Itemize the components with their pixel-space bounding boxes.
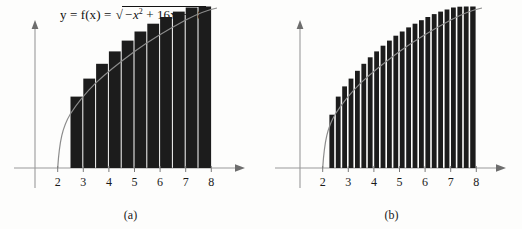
bar (173, 12, 185, 168)
tick-label: 8 (208, 175, 214, 189)
panel-b: 2 3 4 5 6 7 8 (b) (261, 0, 522, 229)
bar (135, 32, 147, 169)
bar (425, 17, 430, 168)
tick-label: 4 (371, 175, 377, 189)
bar (71, 97, 83, 168)
tick-label: 5 (397, 175, 403, 189)
bar (464, 7, 469, 169)
bar (400, 32, 405, 169)
panel-b-caption: (b) (261, 208, 522, 223)
x-axis-arrow-icon (496, 164, 506, 172)
tick-label: 4 (106, 175, 112, 189)
bar (445, 10, 450, 169)
bar (470, 7, 475, 169)
panel-a: y = f(x) = √−x2 + 16x − 28 (0, 0, 261, 229)
x-tick-labels-b: 2 3 4 5 6 7 8 (320, 175, 480, 189)
bar (186, 8, 198, 169)
tick-label: 6 (157, 175, 163, 189)
tick-label: 2 (320, 175, 326, 189)
tick-label: 7 (448, 175, 454, 189)
bar (147, 24, 159, 168)
bar (451, 8, 456, 169)
y-axis-b (297, 20, 304, 188)
bar (438, 12, 443, 168)
tick-label: 3 (80, 175, 86, 189)
y-axis-a (32, 20, 39, 188)
bar (419, 20, 424, 168)
panel-a-caption: (a) (0, 208, 261, 223)
bar (413, 24, 418, 168)
riemann-sum-figure: y = f(x) = √−x2 + 16x − 28 (0, 0, 522, 229)
x-axis-arrow-icon (235, 164, 245, 172)
bar (329, 115, 334, 168)
tick-label: 6 (422, 175, 428, 189)
tick-label: 7 (183, 175, 189, 189)
y-axis-arrow-icon (32, 20, 39, 29)
bars-b (329, 7, 475, 169)
plot-a: 2 3 4 5 6 7 8 (0, 0, 261, 200)
plot-b: 2 3 4 5 6 7 8 (261, 0, 522, 200)
y-axis-arrow-icon (297, 20, 304, 29)
bar (457, 7, 462, 168)
tick-label: 8 (473, 175, 479, 189)
bar (406, 27, 411, 168)
bar (432, 14, 437, 168)
bar (83, 79, 95, 168)
tick-label: 5 (132, 175, 138, 189)
tick-label: 2 (55, 175, 61, 189)
bar (160, 17, 172, 168)
tick-label: 3 (345, 175, 351, 189)
x-tick-labels-a: 2 3 4 5 6 7 8 (55, 175, 215, 189)
bar (96, 64, 108, 168)
bar (199, 7, 212, 169)
bar (109, 51, 121, 168)
